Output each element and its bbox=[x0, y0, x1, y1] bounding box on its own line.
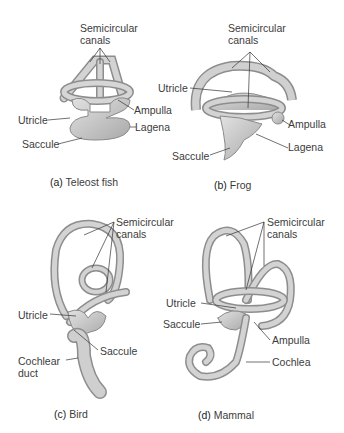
label-line-2: canals bbox=[267, 228, 325, 240]
label-saccule-b: Saccule bbox=[172, 150, 209, 162]
label-utricle-a: Utricle bbox=[18, 114, 48, 126]
label-line-2: canals bbox=[116, 228, 174, 240]
label-ampulla-a: Ampulla bbox=[134, 104, 172, 116]
label-utricle-b: Utricle bbox=[158, 82, 188, 94]
label-line-2: canals bbox=[80, 34, 138, 46]
frog-ear-drawing bbox=[196, 66, 292, 160]
caption-text: Teleost fish bbox=[66, 176, 119, 188]
label-lagena-b: Lagena bbox=[288, 141, 323, 153]
label-line-1: Semicircular bbox=[116, 216, 174, 228]
label-saccule-a: Saccule bbox=[22, 138, 59, 150]
label-utricle-d: Utricle bbox=[166, 297, 196, 309]
label-line-1: Semicircular bbox=[228, 22, 286, 34]
caption-letter: (b) bbox=[214, 179, 227, 191]
caption-text: Mammal bbox=[214, 409, 254, 421]
caption-text: Bird bbox=[69, 408, 88, 420]
caption-d: (d) Mammal bbox=[198, 409, 254, 421]
caption-c: (c) Bird bbox=[54, 408, 88, 420]
label-semicircular-canals-b: Semicircular canals bbox=[228, 22, 286, 46]
caption-a: (a) Teleost fish bbox=[50, 176, 118, 188]
label-line-1: Cochlear bbox=[18, 355, 60, 367]
caption-text: Frog bbox=[230, 179, 252, 191]
label-saccule-c: Saccule bbox=[100, 345, 137, 357]
label-saccule-d: Saccule bbox=[163, 318, 200, 330]
caption-b: (b) Frog bbox=[214, 179, 251, 191]
caption-letter: (d) bbox=[198, 409, 211, 421]
label-lagena-a: Lagena bbox=[135, 121, 170, 133]
label-semicircular-canals-d: Semicircular canals bbox=[267, 216, 325, 240]
label-ampulla-d: Ampulla bbox=[272, 334, 310, 346]
label-cochlear-duct-c: Cochlear duct bbox=[18, 355, 60, 379]
label-semicircular-canals-a: Semicircular canals bbox=[80, 22, 138, 46]
label-line-2: canals bbox=[228, 34, 286, 46]
bird-ear-drawing bbox=[54, 224, 126, 392]
label-cochlea-d: Cochlea bbox=[272, 356, 311, 368]
caption-letter: (a) bbox=[50, 176, 63, 188]
teleost-fish-ear-drawing bbox=[64, 60, 130, 140]
label-ampulla-b: Ampulla bbox=[288, 118, 326, 130]
caption-letter: (c) bbox=[54, 408, 66, 420]
label-line-1: Semicircular bbox=[267, 216, 325, 228]
label-utricle-c: Utricle bbox=[18, 309, 48, 321]
label-semicircular-canals-c: Semicircular canals bbox=[116, 216, 174, 240]
label-line-2: duct bbox=[18, 367, 60, 379]
label-line-1: Semicircular bbox=[80, 22, 138, 34]
